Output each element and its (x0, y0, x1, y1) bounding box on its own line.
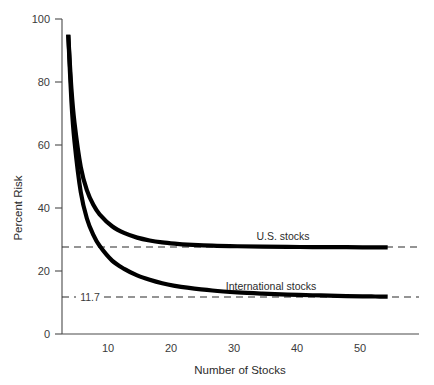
ytick-label-100: 100 (32, 13, 50, 25)
xtick-label-10: 10 (102, 342, 114, 354)
curve-international-stocks (68, 35, 387, 297)
x-axis-title: Number of Stocks (194, 364, 286, 376)
risk-diversification-chart: 100 80 60 40 20 0 10 20 30 40 50 Number … (0, 0, 434, 385)
series-label-us-stocks: U.S. stocks (256, 230, 309, 242)
y-axis-title: Percent Risk (12, 175, 24, 240)
xtick-label-20: 20 (165, 342, 177, 354)
ytick-label-20: 20 (38, 265, 50, 277)
xtick-label-50: 50 (354, 342, 366, 354)
ytick-label-60: 60 (38, 139, 50, 151)
xtick-label-30: 30 (228, 342, 240, 354)
ytick-label-0: 0 (44, 328, 50, 340)
series-label-international-stocks: International stocks (226, 280, 316, 292)
curve-us-stocks (68, 35, 387, 248)
xtick-label-40: 40 (291, 342, 303, 354)
annotation-11-7: 11.7 (80, 291, 100, 303)
ytick-label-40: 40 (38, 202, 50, 214)
chart-canvas: 100 80 60 40 20 0 10 20 30 40 50 Number … (0, 0, 434, 385)
ytick-label-80: 80 (38, 76, 50, 88)
